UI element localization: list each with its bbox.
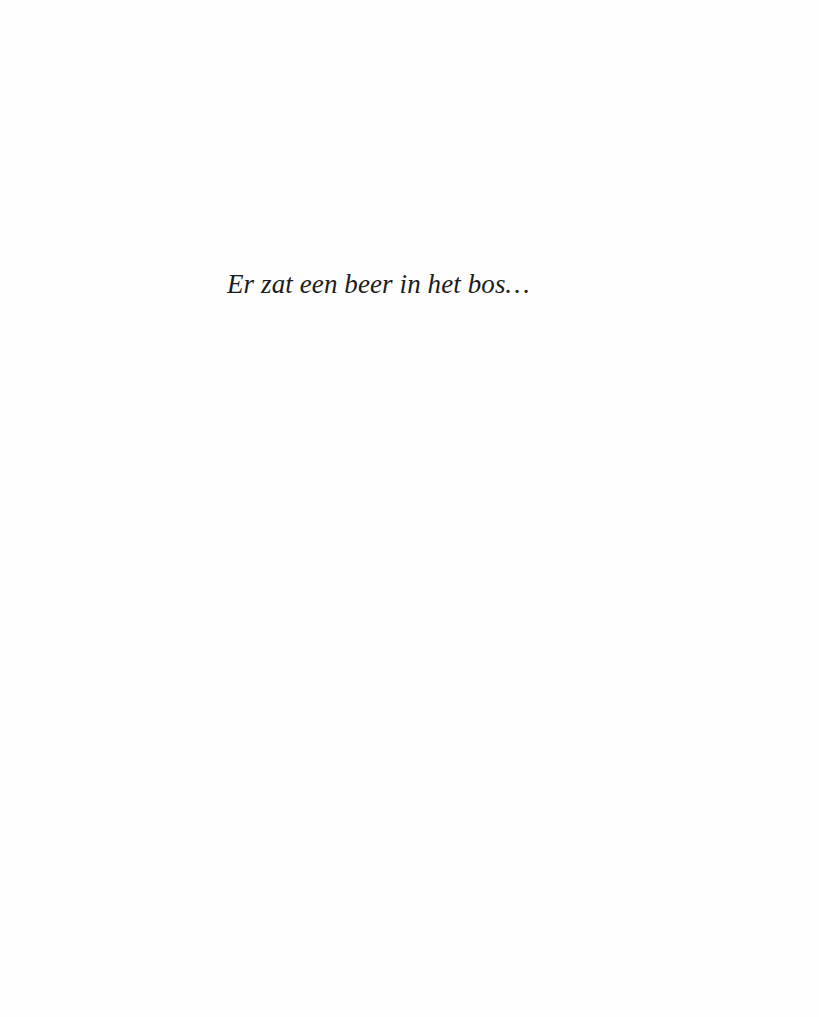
book-page: Er zat een beer in het bos… [0,0,819,1017]
epigraph-text: Er zat een beer in het bos… [227,264,530,304]
